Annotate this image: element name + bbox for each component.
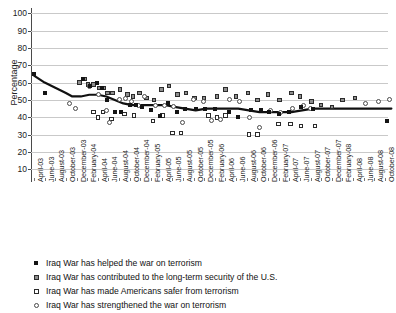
x-tick-mark: [183, 178, 184, 181]
x-tick-mark: [257, 178, 258, 181]
data-point: [194, 107, 198, 111]
legend-item: Iraq War has contributed to the long-ter…: [31, 270, 386, 284]
data-point: [149, 108, 153, 112]
x-tick-mark: [140, 178, 141, 181]
y-tick-label: 90: [3, 27, 27, 36]
x-tick-mark: [108, 178, 109, 181]
data-point: [353, 96, 358, 101]
x-tick-label: August-08: [377, 150, 384, 182]
data-point: [123, 96, 128, 101]
x-tick-label: December-07: [335, 140, 342, 182]
legend-label: Iraq War has strengthened the war on ter…: [46, 300, 226, 310]
chart-legend: Iraq War has helped the war on terrorism…: [31, 256, 386, 312]
data-point: [267, 110, 271, 114]
x-tick-label: June-05: [175, 157, 182, 182]
data-point: [215, 94, 220, 99]
data-point: [218, 117, 223, 122]
data-point: [249, 108, 253, 112]
data-point: [179, 131, 184, 136]
legend-label: Iraq War has made Americans safer from t…: [46, 286, 239, 296]
data-point: [67, 101, 72, 106]
x-tick-mark: [34, 178, 35, 181]
x-tick-mark: [77, 178, 78, 181]
x-tick-mark: [162, 178, 163, 181]
data-point: [319, 103, 324, 108]
legend-marker-icon: [31, 261, 41, 266]
x-tick-label: February-05: [154, 144, 161, 182]
x-tick-label: August-06: [250, 150, 257, 182]
y-tick-label: 30: [3, 131, 27, 140]
data-point: [128, 103, 132, 107]
data-point: [104, 108, 109, 113]
x-tick-mark: [151, 178, 152, 181]
data-point: [255, 98, 260, 103]
data-point: [152, 98, 157, 103]
x-tick-mark: [268, 178, 269, 181]
data-point: [105, 98, 109, 102]
data-point: [287, 110, 291, 114]
data-point: [246, 91, 251, 96]
x-tick-label: August-04: [122, 150, 129, 182]
data-point: [32, 72, 36, 76]
x-tick-label: February-07: [282, 144, 289, 182]
x-tick-mark: [332, 178, 333, 181]
data-point: [118, 87, 123, 92]
data-point: [96, 115, 101, 120]
x-tick-mark: [353, 178, 354, 181]
x-tick-label: October-04: [133, 147, 140, 182]
data-point: [134, 103, 138, 107]
data-point: [170, 131, 175, 136]
x-tick-mark: [119, 178, 120, 181]
legend-item: Iraq War has made Americans safer from t…: [31, 284, 386, 298]
x-tick-mark: [289, 178, 290, 181]
x-tick-label: April-08: [356, 158, 363, 182]
x-tick-mark: [225, 178, 226, 181]
data-point: [153, 103, 158, 108]
y-tick-label: 100: [3, 9, 27, 18]
x-tick-label: October-07: [324, 147, 331, 182]
data-point: [131, 94, 136, 99]
x-tick-label: June-04: [111, 157, 118, 182]
x-tick-label: April-05: [165, 158, 172, 182]
legend-label: Iraq War has contributed to the long-ter…: [46, 272, 277, 282]
data-point: [309, 99, 314, 104]
legend-item: Iraq War has strengthened the war on ter…: [31, 298, 386, 312]
data-point: [88, 84, 92, 88]
x-tick-label: June-06: [239, 157, 246, 182]
data-point: [340, 98, 345, 103]
x-tick-label: October-08: [388, 147, 395, 182]
data-point: [330, 105, 335, 110]
data-point: [236, 115, 240, 119]
data-point: [255, 132, 260, 137]
y-tick-label: 20: [3, 148, 27, 157]
x-tick-label: August-07: [314, 150, 321, 182]
data-point: [276, 122, 281, 127]
data-point: [385, 119, 389, 123]
x-tick-label: October-05: [197, 147, 204, 182]
y-axis-title: Percentage: [10, 48, 19, 118]
y-tick-label: 10: [3, 165, 27, 174]
x-tick-mark: [55, 178, 56, 181]
data-point: [289, 91, 294, 96]
x-tick-mark: [311, 178, 312, 181]
data-point: [311, 107, 315, 111]
legend-marker-icon: [31, 303, 41, 308]
x-tick-mark: [172, 178, 173, 181]
data-point: [298, 94, 303, 99]
x-tick-mark: [236, 178, 237, 181]
x-tick-mark: [215, 178, 216, 181]
data-point: [203, 107, 207, 111]
data-point: [158, 114, 162, 118]
data-point: [132, 113, 137, 118]
data-point: [105, 91, 110, 96]
data-point: [223, 87, 228, 92]
data-point: [110, 91, 115, 96]
legend-marker-icon: [31, 289, 41, 294]
x-tick-mark: [342, 178, 343, 181]
x-tick-mark: [130, 178, 131, 181]
data-point: [91, 110, 96, 115]
x-tick-mark: [204, 178, 205, 181]
data-point: [277, 112, 281, 116]
data-point: [113, 110, 117, 114]
